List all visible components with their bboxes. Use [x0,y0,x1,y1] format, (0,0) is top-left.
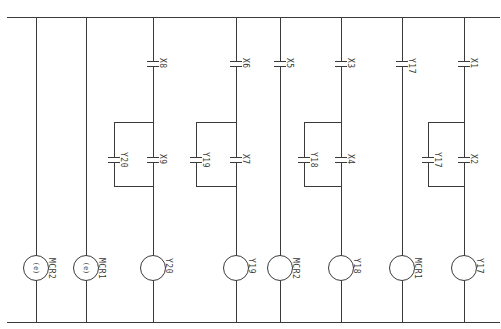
contact-label: Y18 [309,152,318,168]
branch-wire [196,186,237,187]
contact-label: X7 [241,154,250,165]
coil-inner-text [329,256,353,280]
branch-wire [304,186,342,187]
coil-label: Y18 [352,258,361,274]
branch-wire [196,122,237,123]
contact-label: Y20 [119,152,128,168]
contact-label: X5 [285,58,294,69]
coil-mcr1: (e) [73,255,99,281]
contact-label: X6 [241,58,250,69]
contact-label: X9 [158,154,167,165]
coil-label: Y19 [247,258,256,274]
coil-inner-text [268,256,292,280]
coil-inner-text [452,256,476,280]
coil-y18 [328,255,354,281]
coil-y20 [140,255,166,281]
branch-wire [428,186,465,187]
rung-wire [280,281,281,323]
bottom-power-rail [7,322,500,323]
rung-wire [236,17,237,256]
rung-wire [341,281,342,323]
coil-mcr2 [267,255,293,281]
contact-label: Y19 [201,152,210,168]
branch-wire [304,122,342,123]
rung-wire [402,17,403,256]
contact-label: X1 [469,58,478,69]
contact-label: X3 [346,58,355,69]
rung-wire [464,17,465,256]
rung-wire [341,17,342,256]
branch-wire [114,186,154,187]
contact-label: Y17 [433,152,442,168]
contact-label: X4 [346,154,355,165]
branch-wire [428,122,429,187]
branch-wire [196,122,197,187]
coil-inner-text [390,256,414,280]
coil-inner-text: (e) [24,256,48,280]
coil-y19 [223,255,249,281]
branch-wire [428,122,465,123]
coil-label: MCR1 [97,258,106,279]
coil-inner-text [141,256,165,280]
coil-label: MCR2 [291,258,300,279]
coil-label: Y17 [475,258,484,274]
coil-label: MCR1 [413,258,422,279]
contact-label: Y17 [407,58,416,74]
coil-inner-text: (e) [74,256,98,280]
ladder-diagram: (e)MCR2(e)MCR1X8X9Y20Y20X6X7Y19Y19X5MCR2… [0,0,501,329]
rung-wire [36,281,37,323]
rung-wire [153,17,154,256]
rung-wire [36,17,37,256]
coil-mcr1 [389,255,415,281]
contact-label: X2 [469,154,478,165]
branch-wire [304,122,305,187]
rung-wire [86,281,87,323]
coil-label: MCR2 [47,258,56,279]
coil-label: Y20 [164,258,173,274]
rung-wire [153,281,154,323]
contact-label: X8 [158,58,167,69]
rung-wire [86,17,87,256]
branch-wire [114,122,154,123]
branch-wire [114,122,115,187]
coil-inner-text [224,256,248,280]
coil-y17 [451,255,477,281]
rung-wire [236,281,237,323]
coil-mcr2: (e) [23,255,49,281]
rung-wire [402,281,403,323]
rung-wire [464,281,465,323]
top-power-rail [7,17,500,18]
rung-wire [280,17,281,256]
